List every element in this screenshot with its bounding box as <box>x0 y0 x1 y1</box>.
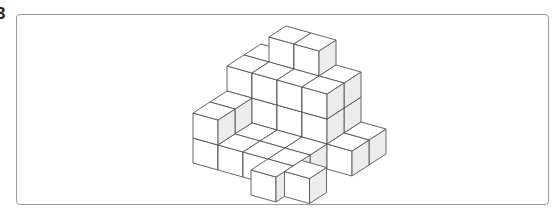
cube-structure-figure <box>0 0 558 219</box>
